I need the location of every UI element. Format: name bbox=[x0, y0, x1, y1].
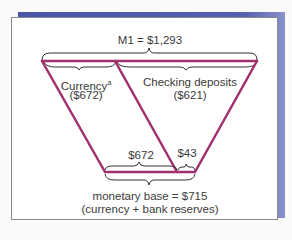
reserves-value: $43 bbox=[175, 147, 199, 160]
reserves-brace bbox=[178, 164, 195, 170]
monetary-base-brace bbox=[105, 174, 195, 185]
checking-value: ($621) bbox=[140, 89, 240, 102]
monetary-base-label: monetary base = $715 bbox=[90, 190, 210, 203]
currency-brace bbox=[44, 62, 116, 70]
m1-brace bbox=[42, 48, 257, 60]
currency-footnote: a bbox=[107, 79, 111, 86]
monetary-base-note: (currency + bank reserves) bbox=[80, 203, 220, 216]
base-currency-brace bbox=[105, 162, 177, 170]
m1-label: M1 = $1,293 bbox=[110, 34, 190, 47]
deposits-brace bbox=[117, 62, 257, 70]
currency-value: ($672) bbox=[60, 89, 112, 102]
base-currency-value: $672 bbox=[124, 149, 158, 162]
checking-label: Checking deposits bbox=[140, 76, 240, 89]
